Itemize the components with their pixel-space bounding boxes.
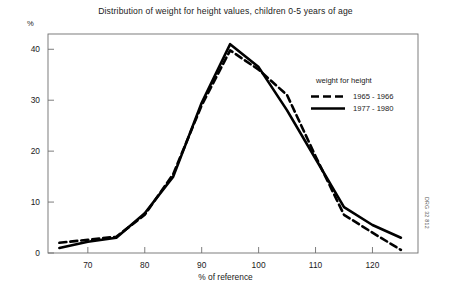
x-tick-label: 100 bbox=[244, 260, 274, 270]
figure-side-code: DRG 32 812 bbox=[424, 197, 430, 229]
legend-item-1965-1966: 1965 - 1966 bbox=[310, 90, 394, 102]
x-tick-label: 80 bbox=[130, 260, 160, 270]
chart-figure: Distribution of weight for height values… bbox=[0, 0, 451, 292]
legend-label: 1977 - 1980 bbox=[353, 104, 394, 113]
y-tick-label: 30 bbox=[18, 95, 40, 105]
x-tick-label: 70 bbox=[73, 260, 103, 270]
chart-legend: weight for height 1965 - 1966 1977 - 198… bbox=[310, 76, 394, 114]
legend-solid-line-icon bbox=[310, 103, 346, 114]
x-tick-label: 110 bbox=[301, 260, 331, 270]
x-tick-label: 90 bbox=[187, 260, 217, 270]
legend-label: 1965 - 1966 bbox=[353, 92, 394, 101]
legend-dashed-line-icon bbox=[310, 91, 346, 102]
legend-item-1977-1980: 1977 - 1980 bbox=[310, 102, 394, 114]
legend-title: weight for height bbox=[316, 76, 394, 85]
y-tick-label: 10 bbox=[18, 197, 40, 207]
x-tick-label: 120 bbox=[357, 260, 387, 270]
y-tick-label: 0 bbox=[18, 248, 40, 258]
y-tick-label: 40 bbox=[18, 44, 40, 54]
y-tick-label: 20 bbox=[18, 146, 40, 156]
plot-area bbox=[0, 0, 451, 292]
x-axis-title: % of reference bbox=[0, 272, 451, 282]
